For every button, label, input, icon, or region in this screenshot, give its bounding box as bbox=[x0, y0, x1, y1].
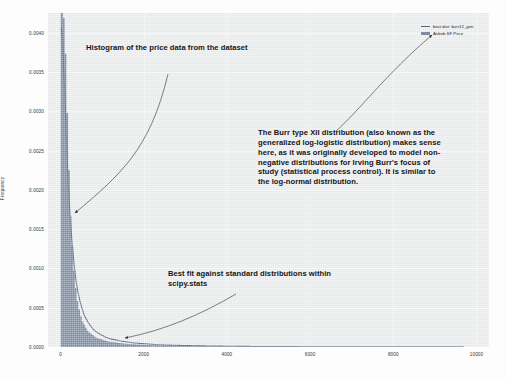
figure-root: 0.0040 0.0035 0.0030 0.0025 0.0020 0.001… bbox=[0, 0, 506, 382]
legend-bar-swatch bbox=[421, 32, 430, 35]
legend-line-swatch bbox=[421, 26, 430, 28]
legend-item-best-dist: best dist: burr12_gen bbox=[421, 24, 473, 29]
legend: best dist: burr12_gen Airbnb SF Price bbox=[421, 24, 473, 36]
y-tick-label: 0.0005 bbox=[0, 305, 44, 310]
y-tick-label: 0.0020 bbox=[0, 187, 44, 192]
annotation-bestfit-note: Best fit against standard distributions … bbox=[168, 269, 348, 289]
x-tick-label: 0 bbox=[59, 352, 62, 357]
y-tick-label: 0.0010 bbox=[0, 266, 44, 271]
y-axis-label: Frequency bbox=[0, 177, 5, 201]
legend-label: Airbnb SF Price bbox=[433, 31, 463, 36]
x-tick-label: 10000 bbox=[470, 352, 484, 357]
y-tick-label: 0.0015 bbox=[0, 227, 44, 232]
legend-label: best dist: burr12_gen bbox=[433, 24, 473, 29]
y-tick-label: 0.0000 bbox=[0, 345, 44, 350]
x-tick-label: 4000 bbox=[221, 352, 232, 357]
y-tick-label: 0.0025 bbox=[0, 148, 44, 153]
x-tick-label: 6000 bbox=[305, 352, 316, 357]
y-tick-label: 0.0035 bbox=[0, 69, 44, 74]
y-axis-ticks: 0.0040 0.0035 0.0030 0.0025 0.0020 0.001… bbox=[0, 0, 46, 382]
x-tick-label: 2000 bbox=[138, 352, 149, 357]
y-tick-label: 0.0030 bbox=[0, 109, 44, 114]
best-fit-curve bbox=[61, 28, 463, 347]
annotation-histogram-note: Histogram of the price data from the dat… bbox=[86, 43, 276, 53]
legend-item-airbnb-price: Airbnb SF Price bbox=[421, 31, 473, 36]
annotation-burr-note: The Burr type XII distribution (also kno… bbox=[258, 128, 444, 187]
x-tick-label: 8000 bbox=[388, 352, 399, 357]
y-tick-label: 0.0040 bbox=[0, 30, 44, 35]
